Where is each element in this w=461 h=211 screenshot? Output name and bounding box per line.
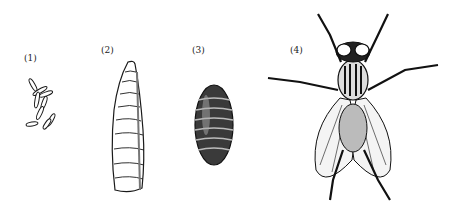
eggs-drawing — [26, 78, 56, 130]
adult-fly-drawing — [268, 14, 438, 200]
fly-life-cycle-illustration: (1) (2) (3) (4) — [0, 0, 461, 211]
pupa-drawing — [195, 85, 233, 165]
larva-drawing — [112, 61, 144, 191]
